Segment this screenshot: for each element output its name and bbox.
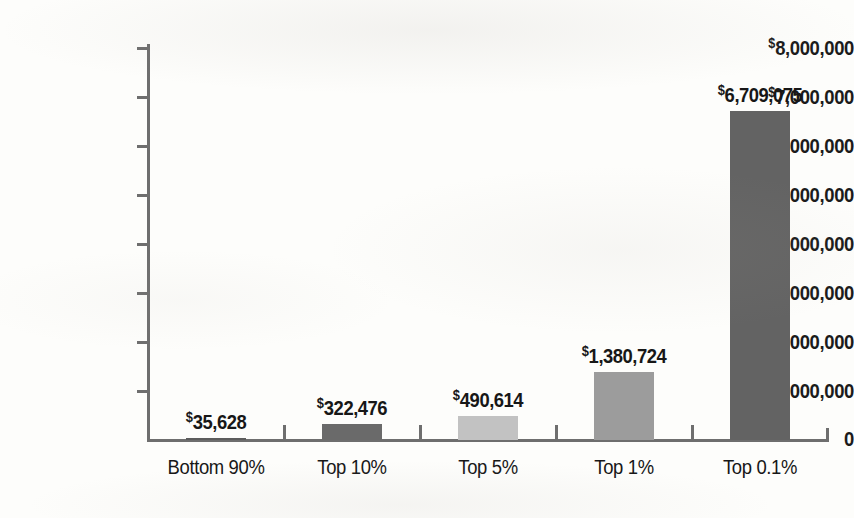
- bar-value-label: $1,380,724: [541, 343, 707, 368]
- y-axis-tick: [137, 96, 149, 99]
- currency-symbol: $: [768, 35, 775, 51]
- currency-symbol: $: [317, 395, 324, 411]
- x-axis-separator-tick: [691, 425, 694, 440]
- bar: [730, 111, 790, 440]
- currency-symbol: $: [582, 343, 589, 359]
- y-axis-tick-label: $8,000,000: [739, 35, 854, 60]
- x-axis-separator-tick: [419, 425, 422, 440]
- x-axis-category-label: Top 0.1%: [679, 455, 841, 479]
- y-axis-tick: [137, 47, 149, 50]
- bar: [458, 416, 518, 440]
- x-axis-end-tick: [826, 428, 829, 440]
- y-axis-tick: [137, 292, 149, 295]
- y-axis-tick: [137, 145, 149, 148]
- bar-value-label: $490,614: [405, 387, 571, 412]
- currency-symbol: $: [718, 82, 725, 98]
- bar: [594, 372, 654, 440]
- y-axis-tick: [137, 390, 149, 393]
- x-axis-separator-tick: [555, 425, 558, 440]
- bar-value-label: $6,709,075: [677, 82, 843, 107]
- y-axis-tick: [137, 243, 149, 246]
- y-axis-tick: [137, 341, 149, 344]
- bar: [322, 424, 382, 440]
- bar: [186, 438, 246, 440]
- y-axis-tick: [137, 194, 149, 197]
- bar-chart: $8,000,000$7,000,000$6,000,000$5,000,000…: [0, 0, 854, 518]
- currency-symbol: $: [453, 387, 460, 403]
- currency-symbol: $: [186, 409, 193, 425]
